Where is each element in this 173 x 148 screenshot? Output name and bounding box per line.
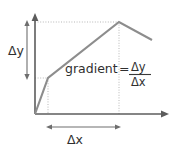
gradient-diagram-canvas: Δy Δx gradient = Δy Δx: [0, 0, 173, 148]
gradient-equals-sign: =: [119, 61, 129, 76]
gradient-figure: Δy Δx gradient = Δy Δx: [0, 0, 173, 148]
gradient-fraction-denominator: Δx: [131, 75, 146, 89]
delta-x-axis-label: Δx: [67, 132, 83, 147]
gradient-word-label: gradient: [65, 61, 118, 76]
gradient-fraction-numerator: Δy: [131, 60, 146, 74]
delta-y-axis-label: Δy: [8, 43, 25, 58]
